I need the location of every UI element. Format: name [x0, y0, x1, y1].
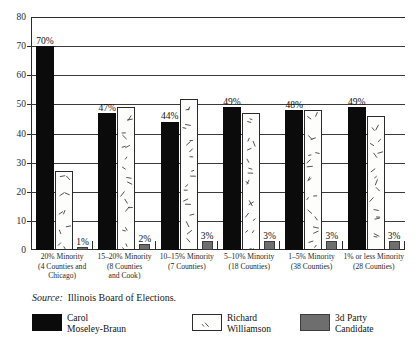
bar-third-party: 1%: [77, 247, 88, 250]
bar-moseley-braun: 47%: [98, 113, 116, 250]
legend-label-line: 3d Party: [335, 313, 374, 324]
legend-swatch: [300, 314, 330, 331]
bar-third-party: 3%: [389, 241, 400, 250]
chart-legend: CarolMoseley-BraunRichardWilliamson3d Pa…: [32, 313, 392, 339]
bar-third-party: 3%: [264, 241, 275, 250]
legend-label-line: Richard: [227, 313, 271, 324]
plot-wrapper: 01020304050607080 70%27%1%47%49%2%44%52%…: [31, 17, 405, 250]
bar-value-label: 1%: [76, 238, 89, 248]
x-axis-label-line: (28 Counties): [335, 262, 413, 272]
bar-value-label: 3%: [201, 232, 214, 242]
bar-group: 47%49%2%: [93, 17, 155, 250]
y-tick-label: 70: [17, 41, 27, 51]
legend-label-line: Candidate: [335, 324, 374, 335]
bar-value-label: 70%: [36, 37, 53, 47]
y-tick-label: 40: [17, 129, 27, 139]
y-tick-label: 60: [17, 70, 27, 80]
source-label: Source:: [32, 292, 63, 303]
bar-moseley-braun: 44%: [161, 122, 179, 250]
bar-moseley-braun: 70%: [36, 46, 54, 250]
x-axis-label-line: and Cook): [85, 271, 163, 281]
legend-label-line: Williamson: [227, 324, 271, 335]
legend-label: 3d PartyCandidate: [335, 313, 374, 334]
bar-value-label: 2%: [138, 235, 151, 245]
y-tick-label: 10: [17, 216, 27, 226]
bar-moseley-braun: 49%: [223, 107, 241, 250]
legend-swatch: [32, 314, 62, 331]
y-tick-label: 20: [17, 187, 27, 197]
bar-group: 49%46%3%: [343, 17, 405, 250]
bar-williamson: 49%: [117, 107, 135, 250]
bar-williamson: 47%: [242, 113, 260, 250]
bar-value-label: 3%: [325, 232, 338, 242]
bar-value-label: 3%: [263, 232, 276, 242]
y-tick-label: 50: [17, 99, 27, 109]
legend-swatch: [192, 314, 222, 331]
x-axis-labels: 20% Minority(4 Counties andChicago)15–20…: [31, 252, 405, 292]
source-value: Illinois Board of Elections.: [68, 292, 176, 303]
y-tick-label: 30: [17, 158, 27, 168]
bar-third-party: 3%: [202, 241, 213, 250]
category-separator: [404, 241, 405, 250]
bar-third-party: 3%: [326, 241, 337, 250]
bar-group: 44%52%3%: [156, 17, 218, 250]
bar-williamson: 27%: [55, 171, 73, 250]
bar-group: 48%48%3%: [280, 17, 342, 250]
bar-third-party: 2%: [139, 244, 150, 250]
legend-label-line: Carol: [67, 313, 126, 324]
bar-value-label: 49%: [223, 98, 240, 108]
legend-item: CarolMoseley-Braun: [32, 313, 126, 334]
bar-williamson: 48%: [304, 110, 322, 250]
bar-value-label: 49%: [348, 98, 365, 108]
legend-label: RichardWilliamson: [227, 313, 271, 334]
bar-moseley-braun: 49%: [348, 107, 366, 250]
legend-label-line: Moseley-Braun: [67, 324, 126, 335]
legend-item: 3d PartyCandidate: [300, 313, 374, 334]
x-axis-label: 1% or less Minority(28 Counties): [335, 252, 413, 271]
bar-moseley-braun: 48%: [285, 110, 303, 250]
source-note: Source:Illinois Board of Elections.: [32, 292, 176, 303]
bar-value-label: 44%: [161, 112, 178, 122]
bar-group: 70%27%1%: [31, 17, 93, 250]
x-axis-label-line: 1% or less Minority: [335, 252, 413, 262]
bar-value-label: 47%: [99, 104, 116, 114]
chart-figure: 01020304050607080 70%27%1%47%49%2%44%52%…: [0, 0, 418, 343]
bar-williamson: 46%: [367, 116, 385, 250]
bar-group: 49%47%3%: [218, 17, 280, 250]
legend-label: CarolMoseley-Braun: [67, 313, 126, 334]
y-tick-label: 80: [17, 12, 27, 22]
legend-item: RichardWilliamson: [192, 313, 271, 334]
bar-williamson: 52%: [180, 99, 198, 250]
bar-value-label: 48%: [286, 101, 303, 111]
bar-value-label: 3%: [388, 232, 401, 242]
